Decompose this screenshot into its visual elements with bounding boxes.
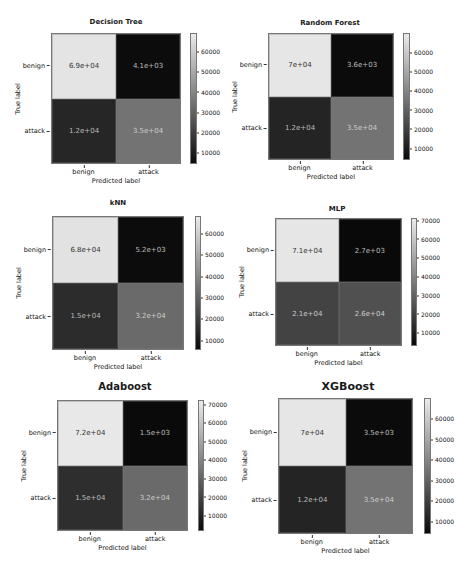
colorbar-tick-label: 50000	[410, 68, 433, 75]
matrix-cell: 1.2e+04	[279, 466, 346, 533]
y-tick-label: attack	[249, 310, 274, 318]
colorbar-tick-label: 20000	[201, 315, 224, 322]
x-tick-label: attack	[141, 354, 161, 362]
matrix-cell: 3.5e+04	[331, 97, 393, 160]
chart-title: Decision Tree	[90, 18, 143, 26]
x-tick-label: benign	[72, 168, 94, 176]
y-axis-label: True label	[238, 266, 246, 298]
y-tick-label: benign	[247, 246, 274, 254]
colorbar	[424, 398, 431, 534]
confusion-matrix-grid: 7e+043.6e+031.2e+043.5e+04	[268, 33, 394, 160]
colorbar-tick-label: 20000	[197, 128, 220, 135]
x-axis-label: Predicted label	[314, 359, 362, 367]
matrix-cell: 5.2e+03	[118, 217, 183, 283]
x-axis-label: Predicted label	[321, 547, 369, 555]
colorbar-tick-label: 30000	[410, 106, 433, 113]
colorbar-tick-label: 10000	[204, 512, 227, 519]
matrix-cell: 1.5e+03	[123, 401, 188, 466]
confusion-matrix-grid: 7.1e+042.7e+032.1e+042.6e+04	[275, 218, 402, 346]
x-tick-label: attack	[352, 164, 372, 172]
matrix-cell: 2.7e+03	[339, 219, 402, 282]
colorbar-tick-label: 30000	[201, 294, 224, 301]
chart-title: Random Forest	[300, 19, 360, 27]
chart-title: Adaboost	[98, 381, 151, 392]
y-axis-label: True label	[231, 81, 239, 113]
colorbar-tick-label: 60000	[431, 415, 454, 422]
matrix-cell: 2.1e+04	[276, 282, 339, 345]
y-tick-label: benign	[29, 429, 56, 437]
colorbar-tick-label: 30000	[197, 108, 220, 115]
colorbar-tick-label: 40000	[201, 272, 224, 279]
y-axis-label: True label	[15, 267, 23, 299]
colorbar-tick-label: 40000	[204, 456, 227, 463]
matrix-cell: 7e+04	[279, 399, 346, 466]
colorbar-tick-label: 10000	[431, 517, 454, 524]
colorbar-tick-label: 20000	[431, 497, 454, 504]
matrix-cell: 6.8e+04	[53, 217, 118, 283]
colorbar-tick-label: 60000	[417, 235, 440, 242]
colorbar-tick-label: 10000	[201, 336, 224, 343]
colorbar-tick-label: 60000	[204, 419, 227, 426]
matrix-cell: 7.1e+04	[276, 219, 339, 282]
colorbar-tick-label: 40000	[197, 88, 220, 95]
colorbar	[190, 33, 197, 164]
matrix-cell: 2.6e+04	[339, 282, 402, 345]
x-tick-label: attack	[360, 350, 380, 358]
colorbar-tick-label: 50000	[197, 68, 220, 75]
colorbar-tick-label: 30000	[431, 476, 454, 483]
colorbar-tick-label: 40000	[431, 456, 454, 463]
x-tick-label: benign	[74, 354, 96, 362]
matrix-cell: 4.1e+03	[116, 34, 180, 99]
colorbar-tick-label: 60000	[197, 48, 220, 55]
matrix-cell: 3.5e+03	[346, 399, 413, 466]
colorbar-tick-label: 20000	[204, 493, 227, 500]
x-tick-label: attack	[138, 168, 158, 176]
x-axis-label: Predicted label	[92, 177, 140, 185]
confusion-matrix-grid: 7e+043.5e+031.2e+043.5e+04	[278, 398, 413, 534]
confusion-matrix-grid: 6.8e+045.2e+031.5e+043.2e+04	[52, 216, 184, 350]
chart-title: MLP	[329, 205, 346, 213]
colorbar-tick-label: 50000	[417, 254, 440, 261]
matrix-cell: 3.2e+04	[118, 283, 183, 349]
y-tick-label: benign	[24, 246, 51, 254]
colorbar-tick-label: 60000	[201, 230, 224, 237]
colorbar-tick-label: 70000	[204, 400, 227, 407]
y-tick-label: attack	[252, 496, 277, 504]
colorbar-tick-label: 70000	[417, 216, 440, 223]
x-tick-label: benign	[296, 350, 318, 358]
x-tick-label: benign	[288, 164, 310, 172]
chart-title: XGBoost	[322, 380, 375, 393]
matrix-cell: 3.5e+04	[346, 466, 413, 533]
colorbar-tick-label: 60000	[410, 49, 433, 56]
x-tick-label: benign	[301, 538, 323, 546]
confusion-matrix-grid: 7.2e+041.5e+031.5e+043.2e+04	[57, 400, 188, 531]
colorbar-tick-label: 40000	[417, 273, 440, 280]
colorbar-tick-label: 50000	[204, 437, 227, 444]
matrix-cell: 3.2e+04	[123, 466, 188, 531]
y-tick-label: benign	[23, 62, 50, 70]
x-axis-label: Predicted label	[307, 173, 355, 181]
colorbar-tick-label: 20000	[410, 125, 433, 132]
y-axis-label: True label	[14, 83, 22, 115]
colorbar-tick-label: 20000	[417, 310, 440, 317]
matrix-cell: 6.9e+04	[52, 34, 116, 99]
y-tick-label: attack	[26, 313, 51, 321]
matrix-cell: 7e+04	[269, 34, 331, 97]
matrix-cell: 3.5e+04	[116, 99, 180, 164]
colorbar-tick-label: 50000	[201, 251, 224, 258]
y-axis-label: True label	[20, 450, 28, 482]
x-tick-label: benign	[79, 535, 101, 543]
matrix-cell: 1.2e+04	[52, 99, 116, 164]
matrix-cell: 1.2e+04	[269, 97, 331, 160]
y-tick-label: benign	[250, 428, 277, 436]
chart-title: kNN	[110, 199, 126, 207]
colorbar-tick-label: 30000	[204, 475, 227, 482]
colorbar-tick-label: 40000	[410, 87, 433, 94]
matrix-cell: 3.6e+03	[331, 34, 393, 97]
colorbar-tick-label: 10000	[417, 329, 440, 336]
y-tick-label: attack	[242, 124, 267, 132]
x-tick-label: attack	[369, 538, 389, 546]
confusion-matrix-grid: 6.9e+044.1e+031.2e+043.5e+04	[51, 33, 181, 164]
x-axis-label: Predicted label	[98, 544, 146, 552]
x-tick-label: attack	[145, 535, 165, 543]
